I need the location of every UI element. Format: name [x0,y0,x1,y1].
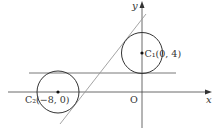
y-axis-label: y [131,0,138,11]
c2-label: C₂(−8, 0) [25,94,70,105]
x-axis-label: x [206,94,212,105]
y-axis [140,1,145,128]
y-axis-arrow-icon [140,1,145,8]
center-point-c1 [140,51,143,54]
slanted-tangent-line [60,14,146,124]
diagram-canvas: y x O C₁(0, 4) C₂(−8, 0) [0,0,215,132]
origin-label: O [130,94,138,105]
c1-label: C₁(0, 4) [145,48,182,59]
